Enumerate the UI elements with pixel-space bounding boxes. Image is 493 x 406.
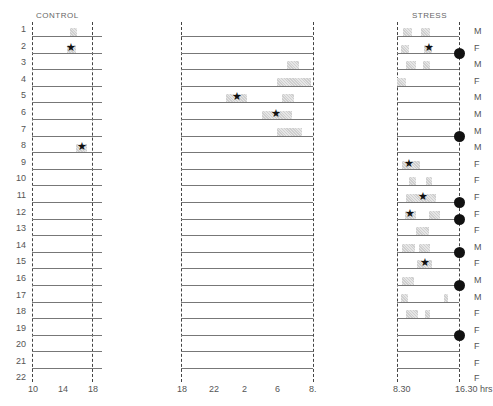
sex-label: M	[474, 242, 482, 252]
x-tick-label: 16.30 hrs	[455, 384, 493, 394]
sex-label: F	[474, 192, 480, 202]
row-line	[397, 119, 459, 120]
activity-block	[282, 94, 294, 102]
row-line	[32, 235, 102, 236]
row-line	[181, 36, 313, 37]
row-line	[397, 169, 459, 170]
row-line	[181, 219, 313, 220]
x-tick-label: 8.	[309, 384, 317, 394]
death-marker-icon	[454, 330, 465, 341]
sex-label: M	[474, 26, 482, 36]
row-line	[397, 185, 459, 186]
row-line	[181, 252, 313, 253]
star-marker-icon: ★	[232, 91, 242, 102]
death-marker-icon	[454, 197, 465, 208]
star-marker-icon: ★	[418, 191, 428, 202]
activity-block	[429, 211, 440, 219]
sex-label: M	[474, 92, 482, 102]
star-marker-icon: ★	[424, 42, 434, 53]
activity-block	[423, 61, 430, 69]
row-line	[181, 185, 313, 186]
row-label: 17	[4, 290, 26, 300]
row-label: 1	[4, 24, 26, 34]
row-line	[181, 69, 313, 70]
activity-block	[397, 78, 406, 86]
row-label: 7	[4, 124, 26, 134]
row-label: 14	[4, 240, 26, 250]
sex-label: M	[474, 142, 482, 152]
row-line	[181, 152, 313, 153]
axis-dashed-right	[313, 22, 314, 382]
activity-block	[406, 310, 418, 318]
row-line	[397, 102, 459, 103]
star-marker-icon: ★	[404, 158, 414, 169]
row-line	[32, 318, 102, 319]
death-marker-icon	[454, 247, 465, 258]
row-line	[397, 53, 459, 54]
activity-block	[277, 128, 302, 136]
row-label: 19	[4, 323, 26, 333]
row-line	[181, 102, 313, 103]
sex-label: F	[474, 341, 480, 351]
row-line	[32, 102, 102, 103]
row-line	[181, 318, 313, 319]
row-label: 4	[4, 74, 26, 84]
row-line	[181, 235, 313, 236]
star-marker-icon: ★	[77, 141, 87, 152]
activity-block	[402, 277, 414, 285]
row-line	[397, 202, 459, 203]
row-line	[397, 252, 459, 253]
row-line	[181, 53, 313, 54]
sex-label: F	[474, 175, 480, 185]
row-label: 18	[4, 306, 26, 316]
activity-block	[419, 244, 431, 252]
x-tick-label: 2	[242, 384, 247, 394]
row-line	[32, 285, 102, 286]
row-line	[32, 185, 102, 186]
row-line	[181, 335, 313, 336]
row-line	[32, 169, 102, 170]
sex-label: F	[474, 258, 480, 268]
row-label: 20	[4, 339, 26, 349]
row-label: 22	[4, 372, 26, 382]
row-line	[397, 36, 459, 37]
row-line	[397, 335, 459, 336]
row-line	[32, 335, 102, 336]
activity-block	[406, 61, 417, 69]
row-line	[32, 219, 102, 220]
row-line	[32, 351, 102, 352]
row-line	[32, 136, 102, 137]
row-line	[397, 86, 459, 87]
row-label: 3	[4, 57, 26, 67]
row-line	[181, 268, 313, 269]
row-label: 11	[4, 190, 26, 200]
row-label: 12	[4, 207, 26, 217]
sex-label: F	[474, 209, 480, 219]
activity-block	[416, 227, 428, 235]
row-label: 21	[4, 356, 26, 366]
x-tick-label: 22	[209, 384, 219, 394]
sex-label: F	[474, 76, 480, 86]
sex-label: M	[474, 109, 482, 119]
death-marker-icon	[454, 48, 465, 59]
star-marker-icon: ★	[271, 108, 281, 119]
sex-label: F	[474, 358, 480, 368]
x-tick-label: 6	[275, 384, 280, 394]
row-line	[32, 53, 102, 54]
death-marker-icon	[454, 131, 465, 142]
activity-block	[403, 28, 412, 36]
row-label: 8	[4, 140, 26, 150]
row-line	[397, 219, 459, 220]
activity-block	[287, 61, 299, 69]
row-label: 16	[4, 273, 26, 283]
sex-label: F	[474, 159, 480, 169]
x-tick-label: 8.30	[393, 384, 411, 394]
row-line	[397, 69, 459, 70]
row-line	[32, 268, 102, 269]
x-tick-label: 14	[58, 384, 68, 394]
death-marker-icon	[454, 280, 465, 291]
sex-label: F	[474, 43, 480, 53]
x-tick-label: 10	[28, 384, 38, 394]
activity-block	[444, 294, 448, 302]
panel-title: CONTROL	[36, 11, 79, 20]
